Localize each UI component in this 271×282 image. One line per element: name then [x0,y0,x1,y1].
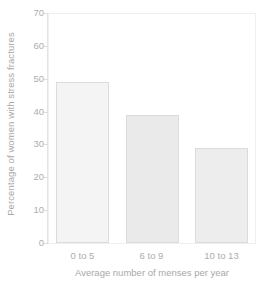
y-axis-tick-mark [44,210,48,211]
bar [56,82,109,243]
x-axis-tick-label: 0 to 5 [48,250,117,262]
y-axis-tick-label: 30 [18,138,44,150]
y-axis-tick-label: 10 [18,204,44,216]
y-axis-tick-label: 0 [18,237,44,249]
y-axis-tick-mark [44,79,48,80]
bar [195,148,248,243]
y-axis-tick-mark [44,144,48,145]
x-axis-title: Average number of menses per year [40,266,264,279]
y-axis-tick-label: 60 [18,40,44,52]
y-axis-tick-mark [44,112,48,113]
bar-chart: Percentage of women with stress fracture… [0,0,271,282]
x-axis-tick-label: 6 to 9 [117,250,186,262]
y-axis-tick-label: 20 [18,171,44,183]
y-axis-title: Percentage of women with stress fracture… [4,4,18,244]
y-axis-tick-mark [44,13,48,14]
bar [126,115,179,243]
y-axis-tick-mark [44,177,48,178]
y-axis-tick-mark [44,243,48,244]
y-axis-tick-label: 70 [18,7,44,19]
y-axis-tick-label: 50 [18,73,44,85]
y-axis-tick-label: 40 [18,106,44,118]
x-axis-tick-label: 10 to 13 [187,250,256,262]
y-axis-tick-mark [44,46,48,47]
